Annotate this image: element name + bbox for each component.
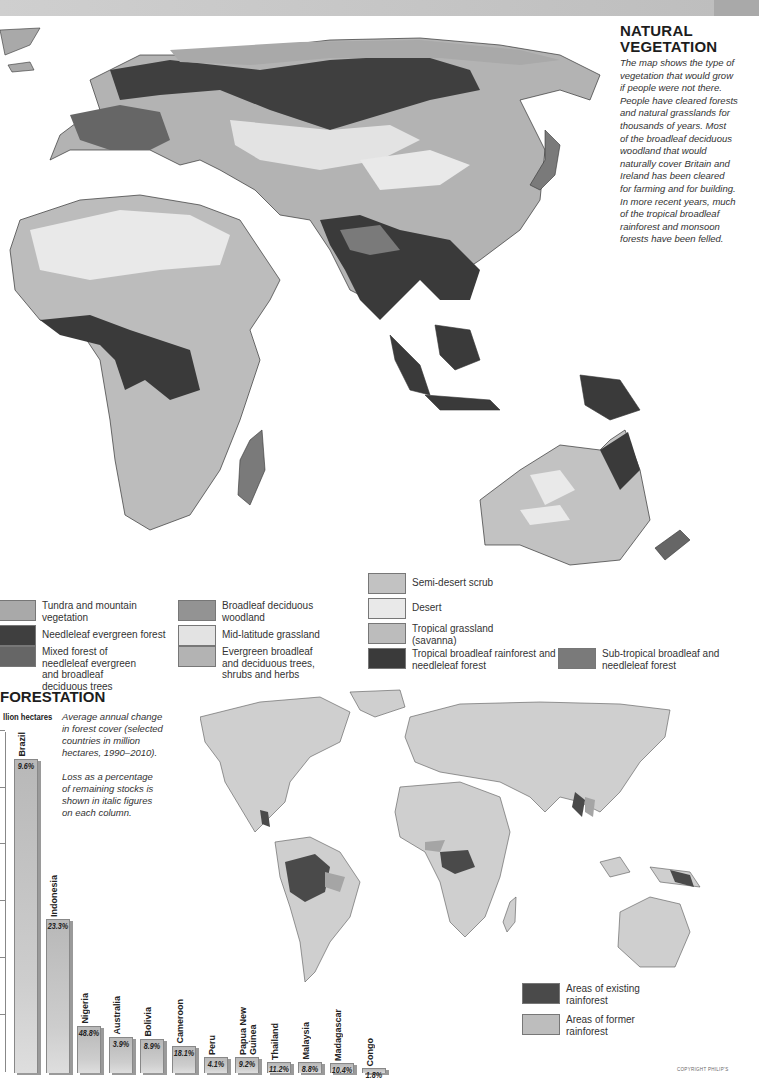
bar-madagascar: 10.4%Madagascar — [330, 1063, 354, 1073]
bar-country-label: Bolivia — [143, 1007, 153, 1037]
bar-percentage-label: 10.4% — [331, 1065, 353, 1075]
bar-country-label: Australia — [112, 996, 122, 1035]
legend-label: Sub-tropical broadleaf and needleleaf fo… — [602, 648, 758, 671]
bar-country-label: Madagascar — [333, 1009, 343, 1061]
bar-bolivia: 8.9%Bolivia — [140, 1039, 164, 1073]
legend-swatch — [522, 1014, 560, 1035]
bar-percentage-label: 9.6% — [15, 761, 37, 771]
bar-country-label: Peru — [207, 1035, 217, 1055]
desc-line: thousands of years. Most — [620, 120, 756, 133]
bar-percentage-label: 4.1% — [205, 1059, 227, 1069]
desc-line: Ireland has been cleared — [620, 170, 756, 183]
bar-percentage-label: 48.8% — [78, 1028, 100, 1038]
bars-container: 9.6%Brazil23.3%Indonesia48.8%Nigeria3.9%… — [0, 0, 400, 1075]
desc-line: forests have been felled. — [620, 233, 756, 246]
desc-line: and natural grasslands for — [620, 107, 756, 120]
legend-swatch — [522, 983, 560, 1004]
bar-peru: 4.1%Peru — [204, 1057, 228, 1073]
bar-brazil: 9.6%Brazil — [14, 759, 38, 1073]
bar-percentage-label: 9.2% — [236, 1059, 258, 1069]
vegetation-description: The map shows the type of vegetation tha… — [620, 57, 756, 246]
desc-line: In more recent years, much — [620, 196, 756, 209]
desc-line: of the tropical broadleaf — [620, 208, 756, 221]
bar-country-label: Nigeria — [80, 993, 90, 1024]
legend-label: Tropical broadleaf rainforest and needle… — [412, 648, 558, 671]
vegetation-title-line1: NATURAL — [620, 23, 756, 39]
legend-swatch — [558, 648, 596, 669]
bar-country-label: Thailand — [270, 1023, 280, 1060]
desc-line: People have cleared forests — [620, 95, 756, 108]
bar-country-label: Indonesia — [49, 875, 59, 917]
bar-country-label: Papua New Guinea — [238, 1005, 258, 1055]
bar-percentage-label: 1.8% — [363, 1070, 385, 1080]
vegetation-title-block: NATURAL VEGETATION The map shows the typ… — [620, 23, 756, 246]
bar-country-label: Congo — [365, 1038, 375, 1067]
bar-percentage-label: 23.3% — [47, 921, 69, 931]
desc-line: if people were not there. — [620, 82, 756, 95]
desc-line: naturally cover Britain and — [620, 158, 756, 171]
legend-item-subtropical: Sub-tropical broadleaf and needleleaf fo… — [558, 648, 758, 671]
legend-label: Areas of existing rainforest — [566, 983, 640, 1006]
bar-indonesia: 23.3%Indonesia — [46, 919, 70, 1073]
legend-label: Semi-desert scrub — [412, 577, 493, 589]
legend-label-line: rainforest — [566, 1026, 635, 1038]
legend-label: Tropical grassland (savanna) — [412, 623, 498, 646]
bar-percentage-label: 8.8% — [299, 1064, 321, 1074]
bar-thailand: 11.2%Thailand — [267, 1062, 291, 1073]
bar-cameroon: 18.1%Cameroon — [172, 1046, 196, 1073]
bar-papua-new-guinea: 9.2%Papua New Guinea — [235, 1057, 259, 1073]
bar-australia: 3.9%Australia — [109, 1037, 133, 1073]
bar-country-label: Cameroon — [175, 999, 185, 1044]
bar-percentage-label: 18.1% — [173, 1048, 195, 1058]
bar-percentage-label: 3.9% — [110, 1039, 132, 1049]
desc-line: The map shows the type of — [620, 57, 756, 70]
bar-malaysia: 8.8%Malaysia — [298, 1062, 322, 1073]
bar-percentage-label: 8.9% — [141, 1041, 163, 1051]
bar-percentage-label: 11.2% — [268, 1064, 290, 1074]
bar-nigeria: 48.8%Nigeria — [77, 1026, 101, 1073]
legend-former-rainforest: Areas of former rainforest — [522, 1014, 672, 1037]
legend-label-line: Areas of existing — [566, 983, 640, 995]
legend-existing-rainforest: Areas of existing rainforest — [522, 983, 672, 1006]
page-tab — [714, 0, 759, 16]
vegetation-title-line2: VEGETATION — [620, 39, 756, 55]
copyright-notice: COPYRIGHT PHILIP'S — [677, 1067, 728, 1072]
desc-line: vegetation that would grow — [620, 70, 756, 83]
desc-line: rainforest and monsoon — [620, 221, 756, 234]
legend-label: Areas of former rainforest — [566, 1014, 635, 1037]
legend-label: Desert — [412, 602, 441, 614]
desc-line: of the broadleaf deciduous — [620, 133, 756, 146]
desc-line: for farming and for building. — [620, 183, 756, 196]
legend-label-line: Areas of former — [566, 1014, 635, 1026]
desc-line: woodland that would — [620, 145, 756, 158]
bar-country-label: Brazil — [17, 732, 27, 757]
legend-label-line: rainforest — [566, 995, 640, 1007]
bar-congo: 1.8%Congo — [362, 1068, 386, 1073]
bar-country-label: Malaysia — [301, 1022, 311, 1060]
